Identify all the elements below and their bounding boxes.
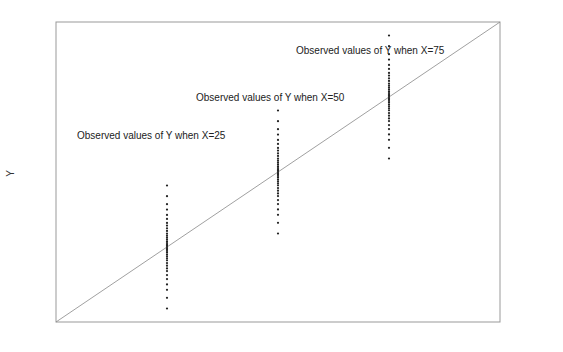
data-point (277, 155, 279, 157)
data-point (166, 267, 168, 269)
data-point (388, 77, 390, 79)
data-point (277, 195, 279, 197)
data-point (166, 195, 168, 197)
data-point (277, 184, 279, 186)
data-point (166, 237, 168, 239)
data-point (277, 182, 279, 184)
data-point (277, 158, 279, 160)
data-point (388, 105, 390, 107)
data-point (277, 165, 279, 167)
data-point (277, 192, 279, 194)
data-point (388, 58, 390, 60)
data-point (277, 203, 279, 205)
data-point (277, 109, 279, 111)
data-point (166, 283, 168, 285)
data-point (388, 72, 390, 74)
data-point (277, 150, 279, 152)
data-point (388, 75, 390, 77)
data-point (166, 307, 168, 309)
data-point (277, 163, 279, 165)
data-point (277, 139, 279, 141)
plot-area (0, 0, 563, 352)
data-point (388, 117, 390, 119)
annotation-x25: Observed values of Y when X=25 (77, 130, 225, 141)
data-point (277, 214, 279, 216)
data-point (388, 157, 390, 159)
data-point (388, 85, 390, 87)
data-point (277, 162, 279, 164)
data-point (277, 222, 279, 224)
data-point (388, 139, 390, 141)
data-point (277, 208, 279, 210)
data-point (388, 64, 390, 66)
data-point (388, 124, 390, 126)
data-point (388, 133, 390, 135)
data-point (166, 227, 168, 229)
data-point (166, 255, 168, 257)
data-point (277, 133, 279, 135)
data-point (166, 184, 168, 186)
data-point (277, 147, 279, 149)
y-axis-label: Y (5, 170, 16, 177)
data-point (388, 120, 390, 122)
data-point (166, 222, 168, 224)
data-point (166, 297, 168, 299)
data-point (388, 34, 390, 36)
data-point (388, 109, 390, 111)
data-point (277, 160, 279, 162)
data-point (388, 83, 390, 85)
data-point (277, 199, 279, 201)
data-point (388, 80, 390, 82)
data-point (166, 270, 168, 272)
data-point (277, 143, 279, 145)
data-point (277, 187, 279, 189)
data-point (388, 90, 390, 92)
annotation-x50: Observed values of Y when X=50 (196, 92, 344, 103)
data-point (166, 278, 168, 280)
data-point (277, 128, 279, 130)
data-point (166, 253, 168, 255)
data-point (166, 259, 168, 261)
data-point (388, 87, 390, 89)
data-point (277, 120, 279, 122)
data-point (166, 230, 168, 232)
data-point (166, 265, 168, 267)
data-point (166, 240, 168, 242)
annotation-x75: Observed values of Y when X=75 (296, 45, 444, 56)
data-point (388, 112, 390, 114)
data-point (277, 232, 279, 234)
data-point (388, 68, 390, 70)
data-point (277, 178, 279, 180)
data-point (166, 208, 168, 210)
data-point (388, 107, 390, 109)
data-point (166, 225, 168, 227)
data-point (166, 235, 168, 237)
data-point (277, 190, 279, 192)
data-point (166, 262, 168, 264)
data-point (388, 103, 390, 105)
data-point (166, 218, 168, 220)
data-point (388, 88, 390, 90)
data-point (388, 128, 390, 130)
data-point (166, 289, 168, 291)
data-point (166, 257, 168, 259)
data-point (277, 152, 279, 154)
data-point (166, 214, 168, 216)
data-point (166, 238, 168, 240)
data-point (166, 233, 168, 235)
data-point (166, 203, 168, 205)
data-point (388, 115, 390, 117)
data-point (388, 147, 390, 149)
data-point (166, 274, 168, 276)
data-point (277, 180, 279, 182)
